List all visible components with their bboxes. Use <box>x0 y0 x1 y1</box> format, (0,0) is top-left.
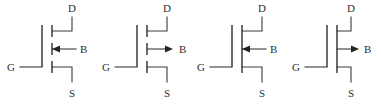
source-lead <box>52 67 72 82</box>
label-drain: D <box>258 2 266 14</box>
symbol-n-channel-depletion: D S G B <box>190 0 285 104</box>
body-arrow-right-icon <box>165 46 173 53</box>
body-arrow-left-icon <box>52 46 60 53</box>
body-arrow-right-icon <box>351 46 359 53</box>
source-lead <box>242 67 262 82</box>
label-drain: D <box>163 2 171 14</box>
drain-lead <box>337 17 351 31</box>
drain-lead <box>242 17 262 31</box>
body-arrow-left-icon <box>242 46 250 53</box>
symbol-p-channel-enhancement: D S G B <box>95 0 190 104</box>
mosfet-symbols-figure: D S G B D S G B D S G B <box>0 0 381 104</box>
label-gate: G <box>292 61 300 73</box>
symbol-p-channel-depletion: D S G B <box>285 0 381 104</box>
label-source: S <box>164 87 170 99</box>
label-gate: G <box>197 61 205 73</box>
label-body: B <box>270 43 277 55</box>
label-body: B <box>364 43 371 55</box>
label-gate: G <box>7 61 15 73</box>
drain-lead <box>52 17 72 31</box>
drain-lead <box>147 17 167 31</box>
label-drain: D <box>68 2 76 14</box>
label-source: S <box>259 87 265 99</box>
label-drain: D <box>347 2 355 14</box>
label-source: S <box>348 87 354 99</box>
label-source: S <box>69 87 75 99</box>
label-gate: G <box>102 61 110 73</box>
label-body: B <box>179 43 186 55</box>
source-lead <box>147 67 167 82</box>
source-lead <box>337 67 351 82</box>
symbol-n-channel-enhancement: D S G B <box>0 0 95 104</box>
label-body: B <box>80 43 87 55</box>
